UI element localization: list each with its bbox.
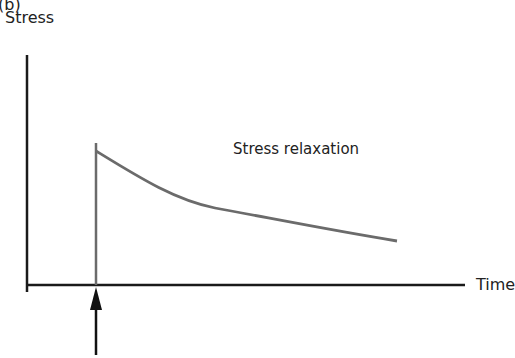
arrow-up-icon bbox=[90, 287, 102, 310]
relaxation-curve bbox=[96, 151, 397, 241]
